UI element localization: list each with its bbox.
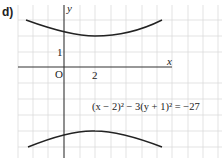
y-tick-1: 1: [57, 47, 63, 58]
hyperbola-graph: [0, 0, 222, 158]
x-tick-2: 2: [92, 70, 98, 81]
origin-label: O: [55, 69, 63, 80]
part-label: d): [2, 7, 13, 18]
y-axis-label: y: [67, 3, 72, 14]
equation-label: (x − 2)² − 3(y + 1)² = −27: [92, 101, 200, 112]
x-axis-label: x: [167, 56, 172, 67]
